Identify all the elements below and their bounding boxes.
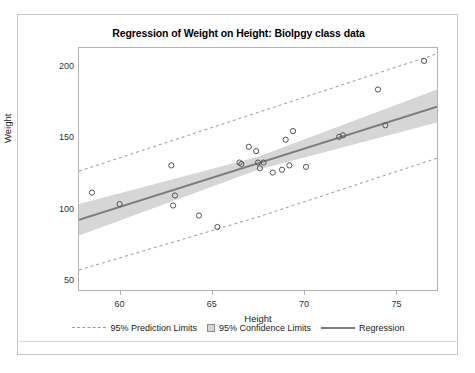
legend-label-regression: Regression: [359, 323, 405, 333]
legend-label-prediction-limits: 95% Prediction Limits: [110, 323, 197, 333]
y-tick-label: 200: [59, 61, 74, 71]
x-axis-ticks: 60657075: [78, 291, 438, 313]
legend-item-regression: Regression: [321, 323, 405, 333]
data-point: [171, 203, 176, 208]
y-axis-label: Weight: [2, 114, 13, 143]
chart-card: Regression of Weight on Height: Biolpgy …: [17, 14, 458, 355]
x-tick-mark: [120, 291, 121, 295]
y-tick-label: 100: [59, 204, 74, 214]
data-point: [303, 164, 308, 169]
shaded-box-icon: [207, 324, 215, 332]
y-axis-ticks: 50100150200: [40, 47, 74, 291]
data-point: [246, 144, 251, 149]
x-tick-mark: [304, 291, 305, 295]
plot-area: [78, 47, 438, 291]
legend-label-confidence-limits: 95% Confidence Limits: [219, 323, 311, 333]
data-point: [421, 58, 426, 63]
chart-legend: 95% Prediction Limits 95% Confidence Lim…: [18, 323, 459, 333]
data-point: [283, 137, 288, 142]
data-point: [279, 167, 284, 172]
x-tick-mark: [212, 291, 213, 295]
legend-item-confidence-limits: 95% Confidence Limits: [207, 323, 311, 333]
data-point: [287, 163, 292, 168]
data-point: [375, 87, 380, 92]
data-point: [196, 213, 201, 218]
dashed-line-icon: [72, 327, 106, 329]
x-tick-label: 70: [299, 299, 309, 309]
data-point: [270, 170, 275, 175]
y-tick-label: 150: [59, 132, 74, 142]
x-tick-label: 75: [391, 299, 401, 309]
solid-line-icon: [321, 327, 355, 329]
plot-svg: [79, 48, 437, 290]
chart-title: Regression of Weight on Height: Biolpgy …: [18, 27, 459, 39]
x-tick-label: 60: [115, 299, 125, 309]
data-point: [254, 149, 259, 154]
legend-item-prediction-limits: 95% Prediction Limits: [72, 323, 197, 333]
data-point: [290, 128, 295, 133]
data-point: [89, 190, 94, 195]
x-tick-mark: [396, 291, 397, 295]
x-tick-label: 65: [207, 299, 217, 309]
y-tick-label: 50: [64, 275, 74, 285]
data-point: [169, 163, 174, 168]
legend-divider: [19, 341, 458, 342]
